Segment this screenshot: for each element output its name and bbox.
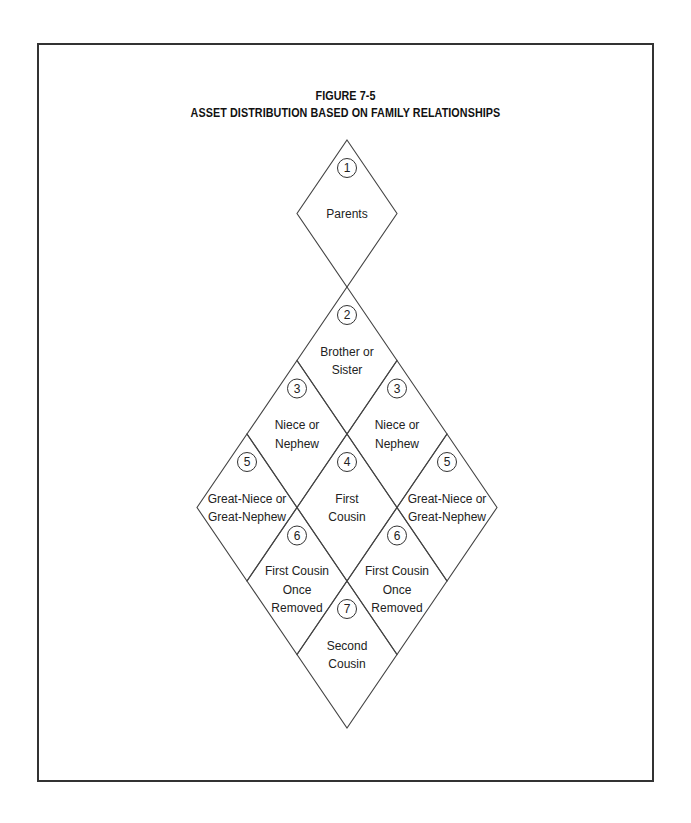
cell-label: Removed (371, 601, 422, 615)
cell-label: Great-Niece or (208, 492, 287, 506)
cell-label: Once (383, 583, 412, 597)
cell-label: First Cousin (365, 564, 429, 578)
cell-label: Great-Nephew (208, 510, 286, 524)
cell-label: Nephew (275, 437, 319, 451)
cell-label: Second (327, 639, 368, 653)
cell-niece-right: 3Niece orNephew (347, 361, 447, 508)
cell-label: First (335, 492, 359, 506)
cell-label: Cousin (328, 657, 365, 671)
order-number: 5 (244, 455, 251, 469)
order-number: 3 (294, 382, 301, 396)
cell-great-niece-left: 5Great-Niece orGreat-Nephew (197, 434, 297, 581)
order-number: 5 (444, 455, 451, 469)
cell-label: Cousin (328, 510, 365, 524)
cell-first-cousin-removed-right: 6First CousinOnceRemoved (347, 508, 447, 655)
cell-label: Great-Nephew (408, 510, 486, 524)
cell-first-cousin: 4FirstCousin (297, 434, 397, 581)
order-number: 1 (344, 161, 351, 175)
order-number: 2 (344, 308, 351, 322)
cell-label: Brother or (320, 345, 373, 359)
order-number: 4 (344, 455, 351, 469)
cell-sibling: 2Brother orSister (297, 287, 397, 434)
cell-first-cousin-removed-left: 6First CousinOnceRemoved (247, 508, 347, 655)
cell-label: Once (283, 583, 312, 597)
cell-label: Great-Niece or (408, 492, 487, 506)
order-number: 7 (344, 602, 351, 616)
cell-parents: 1Parents (297, 140, 397, 287)
relationship-diagram: 1Parents2Brother orSister3Niece orNephew… (0, 0, 691, 823)
order-number: 6 (394, 529, 401, 543)
cell-label: Niece or (375, 418, 420, 432)
cell-label: Sister (332, 363, 363, 377)
order-number: 3 (394, 382, 401, 396)
order-number: 6 (294, 529, 301, 543)
cell-label: Parents (326, 207, 367, 221)
cell-label: First Cousin (265, 564, 329, 578)
cell-niece-left: 3Niece orNephew (247, 361, 347, 508)
cell-label: Nephew (375, 437, 419, 451)
cell-label: Niece or (275, 418, 320, 432)
cell-great-niece-right: 5Great-Niece orGreat-Nephew (397, 434, 497, 581)
cell-label: Removed (271, 601, 322, 615)
